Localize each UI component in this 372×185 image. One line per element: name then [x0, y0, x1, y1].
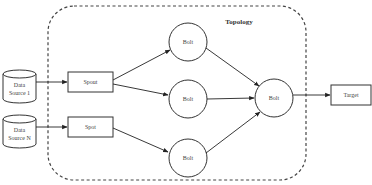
spout-node: Spout [68, 72, 113, 92]
bolt-middle-label: Bolt [183, 96, 194, 102]
data-source-1-label-line2: Source 1 [9, 90, 30, 96]
data-source-1-node: Data Source 1 [3, 70, 36, 103]
bolt-middle-node: Bolt [169, 80, 207, 118]
bolt-top-label: Bolt [183, 39, 194, 45]
topology-title: Topology [225, 18, 253, 26]
bolt-final-label: Bolt [269, 95, 280, 101]
spot-node: Spot [68, 117, 113, 137]
edge-bolt-middle-final [207, 98, 254, 99]
edge-bolt-bottom-final [206, 112, 260, 153]
target-label: Target [343, 92, 358, 98]
data-source-1-label-line1: Data [14, 82, 26, 88]
topology-diagram: Topology Data Source 1 Data Source N Spo… [0, 0, 372, 185]
edge-bolt-top-final [206, 48, 259, 86]
edge-spout-bolt-top [113, 50, 170, 80]
spout-label: Spout [83, 79, 97, 85]
spot-label: Spot [85, 124, 96, 130]
target-node: Target [331, 85, 371, 105]
edge-spout-bolt-middle [113, 84, 168, 95]
bolt-bottom-label: Bolt [183, 155, 194, 161]
data-source-n-label-line2: Source N [8, 135, 31, 141]
bolt-top-node: Bolt [169, 23, 207, 61]
bolt-bottom-node: Bolt [169, 139, 207, 177]
data-source-n-node: Data Source N [3, 115, 36, 148]
data-source-n-label-line1: Data [14, 127, 26, 133]
edge-spot-bolt-bottom [113, 128, 168, 152]
bolt-final-node: Bolt [255, 79, 293, 117]
